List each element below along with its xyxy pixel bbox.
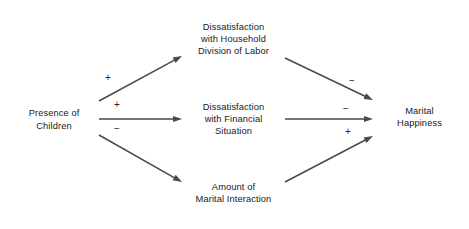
node-label: Dissatisfaction with Household Division …	[198, 21, 269, 58]
sign-label-marital-interaction-to-happiness: +	[343, 127, 353, 137]
node-dissatisfaction-financial-situation: Dissatisfaction with Financial Situation	[186, 95, 281, 143]
arrow-head	[173, 175, 182, 182]
arrow-head	[364, 136, 373, 143]
sign-label-children-to-household-labor: +	[103, 73, 113, 83]
sign-label-financial-to-happiness: −	[341, 104, 351, 114]
sign-label-children-to-financial: +	[112, 100, 122, 110]
arrow-household-labor-to-happiness	[285, 58, 373, 100]
sign-label-household-labor-to-happiness: −	[347, 76, 357, 86]
node-label: Amount of Marital Interaction	[196, 181, 272, 205]
node-marital-happiness: Marital Happiness	[377, 92, 462, 142]
node-label: Presence of Children	[29, 107, 80, 131]
arrow-children-to-financial	[99, 116, 182, 122]
arrow-financial-to-happiness	[285, 116, 373, 122]
path-diagram: Presence of ChildrenDissatisfaction with…	[0, 0, 469, 229]
sign-label-children-to-marital-interaction: −	[112, 124, 122, 134]
arrow-shaft	[285, 139, 367, 182]
arrow-marital-interaction-to-happiness	[285, 136, 373, 182]
node-presence-of-children: Presence of Children	[13, 97, 95, 142]
node-amount-of-marital-interaction: Amount of Marital Interaction	[186, 170, 281, 216]
arrow-head	[173, 56, 182, 63]
node-dissatisfaction-household-division-of-labor: Dissatisfaction with Household Division …	[186, 11, 281, 67]
node-label: Dissatisfaction with Financial Situation	[203, 101, 264, 138]
arrow-head	[364, 93, 373, 100]
arrow-head	[364, 116, 373, 122]
arrow-shaft	[99, 135, 176, 179]
arrow-children-to-marital-interaction	[99, 135, 182, 182]
node-label: Marital Happiness	[397, 105, 442, 129]
arrow-head	[173, 116, 182, 122]
